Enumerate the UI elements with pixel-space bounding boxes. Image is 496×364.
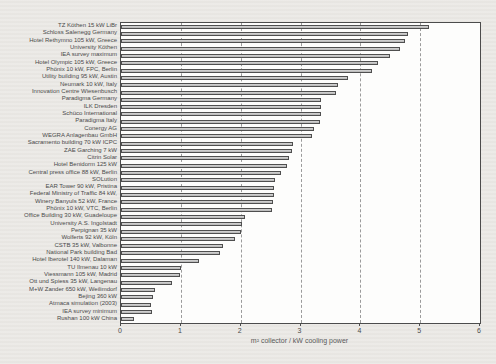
category-label: Phönix 10 kW, VTC, Berlin — [1, 205, 117, 212]
bar — [121, 69, 372, 73]
bar — [121, 112, 321, 116]
bar — [121, 193, 274, 197]
bar — [121, 237, 235, 241]
category-label: Sacramento building 70 kW ICPC — [1, 139, 117, 146]
bar — [121, 251, 220, 255]
category-label: ZAE Garching 7 kW — [1, 147, 117, 154]
x-ticklabel: 0 — [113, 327, 127, 334]
x-tickmark — [240, 323, 241, 326]
scanned-chart-page: TZ Köthen 15 kW LiBrSchloss Salenegg Ger… — [0, 0, 496, 364]
category-label: Paradigma Italy — [1, 117, 117, 124]
category-label: Schüco International — [1, 110, 117, 117]
category-label: Viessmann 105 kW, Madrid — [1, 271, 117, 278]
category-label: WEGRA Anlagenbau GmbH — [1, 132, 117, 139]
bar — [121, 281, 172, 285]
bar — [121, 32, 408, 36]
category-label: Hotel Iberotel 140 kW, Dalaman — [1, 256, 117, 263]
x-tickmark — [419, 323, 420, 326]
bar — [121, 91, 336, 95]
x-axis-title: m² collector / kW cooling power — [120, 337, 479, 344]
category-label: Central press office 88 kW, Berlin — [1, 169, 117, 176]
bar — [121, 259, 199, 263]
category-label: Federal Ministry of Traffic 84 kW, — [1, 190, 117, 197]
category-label: University Köthen — [1, 44, 117, 51]
bar — [121, 310, 152, 314]
x-tickmark — [120, 323, 121, 326]
bar — [121, 54, 390, 58]
bar — [121, 39, 405, 43]
category-label: ILK Dresden — [1, 103, 117, 110]
bar — [121, 208, 272, 212]
category-label: M+W Zander 650 kW, Weilimdorf — [1, 286, 117, 293]
category-label: Schloss Salenegg Germany — [1, 29, 117, 36]
bar — [121, 47, 400, 51]
bar — [121, 156, 289, 160]
bar — [121, 178, 275, 182]
bar — [121, 25, 429, 29]
category-label: National Park building Bad — [1, 249, 117, 256]
x-ticklabel: 6 — [472, 327, 486, 334]
bar — [121, 222, 242, 226]
category-label: CSTB 35 kW, Valbonne — [1, 242, 117, 249]
category-label: Hotel Rethymno 105 kW, Greece — [1, 37, 117, 44]
category-label: Ott und Spiess 35 kW, Langenau — [1, 278, 117, 285]
bar — [121, 127, 314, 131]
category-label: Hotel Olympic 105 kW, Greece — [1, 59, 117, 66]
category-label: Bejing 360 kW — [1, 293, 117, 300]
plot-area — [120, 22, 481, 324]
category-label: TU Ilmenau 10 kW — [1, 264, 117, 271]
bar — [121, 164, 287, 168]
bar — [121, 295, 153, 299]
category-label: Neumark 10 kW, Italy — [1, 81, 117, 88]
category-label: Atmaca simulation (2003) — [1, 300, 117, 307]
category-label: SOLution — [1, 176, 117, 183]
category-label: Conergy AG — [1, 125, 117, 132]
x-tickmark — [359, 323, 360, 326]
bar — [121, 83, 338, 87]
x-tickmark — [479, 323, 480, 326]
category-label: TZ Köthen 15 kW LiBr — [1, 22, 117, 29]
bar — [121, 105, 321, 109]
bar — [121, 215, 245, 219]
bar — [121, 171, 281, 175]
category-label: Office Building 30 kW, Guadeloupe — [1, 212, 117, 219]
bar — [121, 230, 241, 234]
bar — [121, 303, 151, 307]
category-label: EAR Tower 90 kW, Pristina — [1, 183, 117, 190]
category-label: IEA survey maximum — [1, 51, 117, 58]
bar — [121, 244, 223, 248]
bar — [121, 273, 180, 277]
x-ticklabel: 4 — [352, 327, 366, 334]
category-label: Winery Banyuls 52 kW, France — [1, 198, 117, 205]
bar — [121, 120, 320, 124]
bar — [121, 149, 292, 153]
bar — [121, 266, 181, 270]
category-label: Utility building 95 kW, Austin — [1, 73, 117, 80]
category-label: Rushan 100 kW China — [1, 315, 117, 322]
bar — [121, 200, 273, 204]
bar — [121, 142, 293, 146]
x-ticklabel: 5 — [412, 327, 426, 334]
x-ticklabel: 2 — [233, 327, 247, 334]
category-label: IEA survey minimum — [1, 308, 117, 315]
x-ticklabel: 3 — [293, 327, 307, 334]
category-label: Phönix 10 kW, FPC, Berlin — [1, 66, 117, 73]
bar — [121, 288, 155, 292]
category-label: Citrin Solar — [1, 154, 117, 161]
bar — [121, 61, 378, 65]
category-label: Paradigma Germany — [1, 95, 117, 102]
x-tickmark — [300, 323, 301, 326]
x-ticklabel: 1 — [173, 327, 187, 334]
category-label: Innovation Centre Wiesenbusch — [1, 88, 117, 95]
bar — [121, 186, 274, 190]
x-tickmark — [180, 323, 181, 326]
category-label: Wolferts 92 kW, Köln — [1, 234, 117, 241]
bar — [121, 317, 134, 321]
bar — [121, 98, 321, 102]
bar — [121, 76, 348, 80]
category-label: Perpignan 35 kW — [1, 227, 117, 234]
category-label: University A.S. Ingolstadt — [1, 220, 117, 227]
bar — [121, 134, 312, 138]
category-label: Hotel Benidorm 125 kW — [1, 161, 117, 168]
gridline-x-5 — [420, 23, 421, 323]
